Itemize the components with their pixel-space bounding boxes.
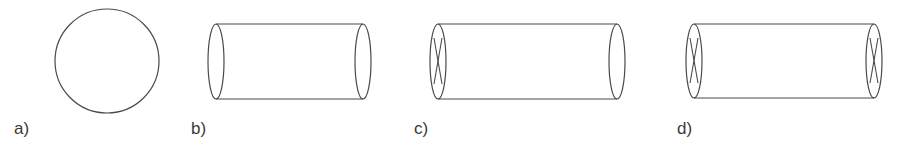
right-end-ellipse bbox=[355, 24, 371, 99]
panel-b-cylinder bbox=[208, 24, 371, 99]
panel-b-label: b) bbox=[191, 119, 206, 139]
right-end-ellipse bbox=[609, 24, 625, 99]
cross-mark-icon bbox=[434, 38, 442, 84]
panel-c-label: c) bbox=[414, 119, 428, 139]
cross-mark-icon bbox=[690, 38, 698, 83]
figure-canvas bbox=[0, 0, 908, 148]
panel-c-cylinder bbox=[430, 24, 625, 99]
left-end-ellipse bbox=[208, 24, 224, 99]
panel-a-label: a) bbox=[14, 119, 29, 139]
panel-a-circle bbox=[55, 9, 159, 113]
cross-mark-icon bbox=[870, 38, 878, 83]
panel-d-cylinder bbox=[686, 24, 882, 98]
panel-d-label: d) bbox=[677, 119, 692, 139]
